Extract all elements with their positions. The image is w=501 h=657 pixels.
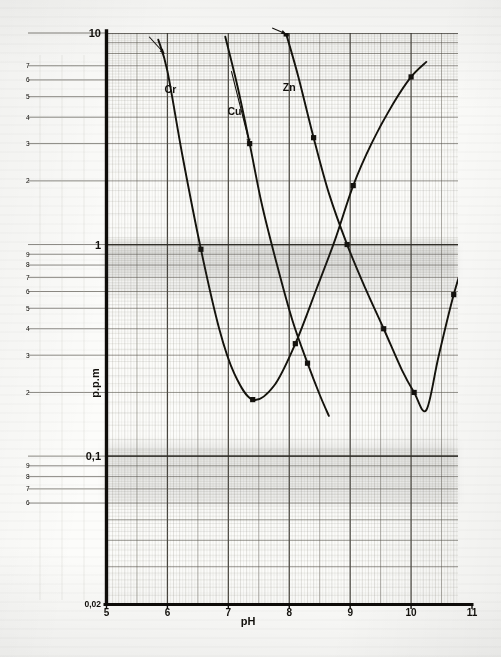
y-minor-tick-label: 3 xyxy=(26,140,30,147)
y-minor-tick-label: 7 xyxy=(26,485,30,492)
y-minor-tick-label: 3 xyxy=(26,352,30,359)
x-tick-label: 7 xyxy=(226,607,232,618)
x-tick-label: 11 xyxy=(467,607,478,618)
y-minor-tick-label: 8 xyxy=(26,473,30,480)
x-axis-tick-labels: 567891011 xyxy=(104,604,478,618)
y-minor-tick-label: 5 xyxy=(26,305,30,312)
y-axis-title: p.p.m xyxy=(89,368,101,398)
curve-label-zn: Zn xyxy=(283,81,296,93)
curve-label-cr: Cr xyxy=(165,83,177,95)
y-major-tick-label: 1 xyxy=(95,239,101,251)
y-minor-tick-label: 6 xyxy=(26,76,30,83)
y-minor-tick-label: 4 xyxy=(26,325,30,332)
y-axis-major-labels: 1010,10,02 xyxy=(84,27,101,609)
solubility-vs-ph-chart: 567891011 1010,10,02 765432987654329876 … xyxy=(0,0,501,657)
y-minor-tick-label: 6 xyxy=(26,499,30,506)
y-minor-tick-label: 5 xyxy=(26,93,30,100)
x-tick-label: 6 xyxy=(165,607,171,618)
y-major-tick-label: 0,1 xyxy=(86,450,101,462)
y-axis-minor-labels: 765432987654329876 xyxy=(26,62,30,506)
y-minor-tick-label: 9 xyxy=(26,251,30,258)
y-minor-tick-label: 2 xyxy=(26,389,30,396)
y-minor-tick-label: 4 xyxy=(26,114,30,121)
x-tick-label: 5 xyxy=(104,607,110,618)
graph-paper-grid xyxy=(107,33,473,604)
y-major-tick-label: 0,02 xyxy=(84,599,101,609)
left-margin-grid xyxy=(28,33,106,600)
curve-label-cu: Cu xyxy=(227,105,241,117)
y-minor-tick-label: 7 xyxy=(26,274,30,281)
x-tick-label: 10 xyxy=(406,607,418,618)
y-minor-tick-label: 8 xyxy=(26,261,30,268)
y-minor-tick-label: 6 xyxy=(26,288,30,295)
y-major-tick-label: 10 xyxy=(89,27,101,39)
x-tick-label: 8 xyxy=(286,607,292,618)
y-minor-tick-label: 9 xyxy=(26,462,30,469)
y-minor-tick-label: 7 xyxy=(26,62,30,69)
x-tick-label: 9 xyxy=(347,607,353,618)
x-axis-title: pH xyxy=(241,615,256,627)
y-minor-tick-label: 2 xyxy=(26,177,30,184)
